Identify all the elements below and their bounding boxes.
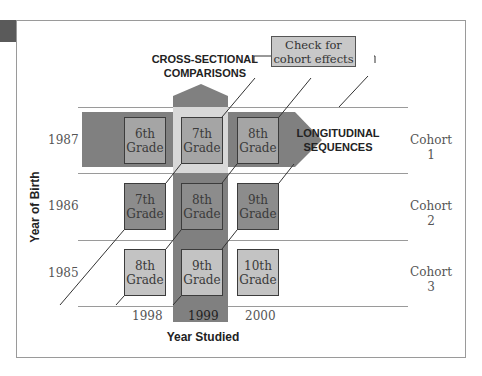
cohort-label-3: Cohort 3: [406, 265, 456, 295]
cell-label: Grade: [183, 273, 220, 287]
column-year-1998: 1998: [132, 309, 163, 323]
cell-1986-2000: 9thGrade: [237, 183, 279, 230]
cell-label: Grade: [239, 273, 276, 287]
row-year-1987: 1987: [48, 133, 79, 147]
cell-grade: 9th: [192, 259, 212, 273]
y-axis-label: Year of Birth: [28, 162, 42, 252]
cell-grade: 7th: [192, 127, 212, 141]
cell-label: Grade: [126, 207, 163, 221]
longitudinal-label: LONGITUDINAL SEQUENCES: [288, 126, 388, 154]
cell-grade: 9th: [248, 193, 268, 207]
cohort-effects-callout: Check for cohort effects: [271, 36, 356, 67]
cell-grade: 8th: [135, 259, 155, 273]
row-year-1985: 1985: [48, 266, 79, 280]
longitudinal-line: SEQUENCES: [288, 140, 388, 154]
cell-grade: 10th: [244, 259, 272, 273]
cohort-word: Cohort: [406, 265, 456, 280]
title-line: CROSS-SECTIONAL: [148, 52, 258, 66]
cohort-label-2: Cohort 2: [406, 199, 456, 229]
row-year-1986: 1986: [48, 199, 79, 213]
callout-line: cohort effects: [272, 52, 355, 66]
cell-label: Grade: [126, 273, 163, 287]
cohort-number: 2: [406, 214, 456, 229]
cell-1986-1998: 7thGrade: [124, 183, 166, 230]
title-line: COMPARISONS: [148, 66, 258, 80]
cohort-label-1: Cohort 1: [406, 133, 456, 163]
cell-1987-2000: 8thGrade: [237, 117, 279, 164]
cohort-word: Cohort: [406, 199, 456, 214]
longitudinal-line: LONGITUDINAL: [288, 126, 388, 140]
cell-label: Grade: [239, 207, 276, 221]
cell-label: Grade: [239, 141, 276, 155]
cell-grade: 8th: [248, 127, 268, 141]
cell-1985-2000: 10thGrade: [237, 249, 279, 296]
cell-1985-1999: 9thGrade: [181, 249, 223, 296]
cell-grade: 6th: [135, 127, 155, 141]
cross-sectional-title: CROSS-SECTIONAL COMPARISONS: [148, 52, 258, 80]
column-year-2000: 2000: [245, 309, 276, 323]
cohort-number: 3: [406, 280, 456, 295]
cohort-word: Cohort: [406, 133, 456, 148]
cell-label: Grade: [183, 141, 220, 155]
column-year-1999: 1999: [188, 309, 219, 323]
cell-1987-1999: 7thGrade: [181, 117, 223, 164]
cell-grade: 8th: [192, 193, 212, 207]
cohort-number: 1: [406, 148, 456, 163]
cell-label: Grade: [183, 207, 220, 221]
cell-label: Grade: [126, 141, 163, 155]
callout-line: Check for: [272, 38, 355, 52]
x-axis-label: Year Studied: [158, 330, 248, 344]
cell-1986-1999: 8thGrade: [181, 183, 223, 230]
cell-1987-1998: 6thGrade: [124, 117, 166, 164]
cell-grade: 7th: [135, 193, 155, 207]
cell-1985-1998: 8thGrade: [124, 249, 166, 296]
